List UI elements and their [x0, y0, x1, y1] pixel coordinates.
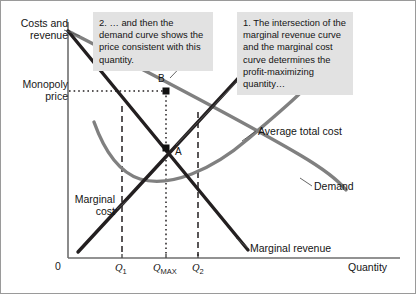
tick-label-qmax: QMAX [153, 262, 177, 278]
tick-label-q2: Q2 [192, 262, 204, 278]
monopoly-price-label: Monopoly price [2, 79, 68, 102]
point-a-label: A [175, 146, 182, 158]
tick-label-q1-base: Q [115, 262, 123, 273]
tick-label-q1-sub: 1 [123, 267, 127, 276]
point-a-marker [163, 145, 170, 152]
tick-label-q2-sub: 2 [200, 267, 204, 276]
callout-box-2: 2. … and then the demand curve shows the… [93, 12, 213, 71]
marginal-revenue-curve-label: Marginal revenue [250, 243, 331, 255]
average-total-cost-curve-label: Average total cost [258, 126, 342, 138]
point-b-marker [163, 88, 170, 95]
point-b-label: B [158, 73, 165, 85]
tick-label-qmax-sub: MAX [161, 267, 177, 276]
tick-label-q1: Q1 [115, 262, 127, 278]
callout-box-1: 1. The intersection of the marginal reve… [237, 12, 353, 95]
demand-curve-label: Demand [314, 181, 354, 193]
monopoly-profit-maximization-diagram: Costs and revenue Quantity 0 Monopoly pr… [0, 0, 416, 294]
origin-label: 0 [55, 261, 61, 273]
tick-label-q2-base: Q [192, 262, 200, 273]
x-axis-title: Quantity [348, 262, 387, 274]
y-axis-title: Costs and revenue [8, 18, 68, 41]
tick-label-qmax-base: Q [153, 262, 161, 273]
marginal-cost-curve-label: Marginal cost [62, 194, 115, 217]
